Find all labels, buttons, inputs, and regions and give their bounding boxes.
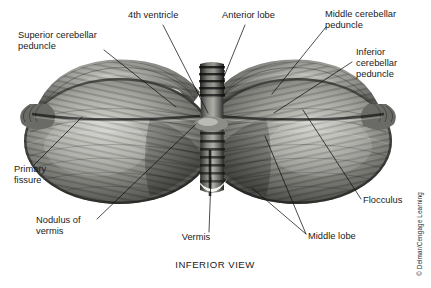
label-nodulus-of-vermis-line-1: Nodulus of	[36, 215, 81, 225]
label-primary-fissure-line-1: Primary	[14, 164, 46, 174]
label-fourth-ventricle: 4th ventricle	[128, 10, 178, 20]
label-superior-cerebellar-peduncle-line-1: Superior cerebellar	[18, 30, 97, 40]
label-nodulus-of-vermis-line-2: vermis	[36, 226, 64, 236]
cerebellum-illustration	[20, 52, 396, 208]
copyright-credit: © Delmar/Cengage Learning	[416, 192, 424, 276]
label-flocculus: Flocculus	[363, 195, 403, 205]
label-anterior-lobe-line-1: Anterior lobe	[222, 10, 275, 20]
label-middle-lobe: Middle lobe	[308, 231, 356, 241]
label-inferior-cerebellar-peduncle-line-2: cerebellar	[356, 58, 397, 68]
label-inferior-cerebellar-peduncle-line-1: Inferior	[356, 47, 385, 57]
label-anterior-lobe: Anterior lobe	[222, 10, 275, 20]
label-superior-cerebellar-peduncle-line-2: peduncle	[18, 41, 56, 51]
label-inferior-cerebellar-peduncle-line-3: peduncle	[356, 69, 394, 79]
cerebellum-figure: Superior cerebellarpeduncle4th ventricle…	[0, 0, 431, 288]
label-middle-cerebellar-peduncle-line-2: peduncle	[325, 20, 363, 30]
label-primary-fissure-line-2: fissure	[14, 175, 42, 185]
figure-page: Superior cerebellarpeduncle4th ventricle…	[0, 0, 431, 288]
brainstem-stub	[199, 62, 225, 98]
label-flocculus-line-1: Flocculus	[363, 195, 403, 205]
label-middle-lobe-line-1: Middle lobe	[308, 231, 356, 241]
label-vermis-line-1: Vermis	[182, 232, 211, 242]
figure-caption: INFERIOR VIEW	[175, 259, 255, 270]
label-fourth-ventricle-line-1: 4th ventricle	[128, 10, 178, 20]
label-vermis: Vermis	[182, 232, 211, 242]
label-middle-cerebellar-peduncle-line-1: Middle cerebellar	[325, 9, 396, 19]
